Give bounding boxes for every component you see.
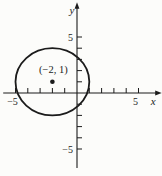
x-tick-label: 5 [133, 96, 138, 107]
x-axis-arrowhead-icon [155, 91, 162, 96]
y-tick-label: 5 [68, 32, 73, 43]
x-axis-label: x [150, 95, 156, 107]
circle-on-coordinate-plane-figure: −55−55xy(−2, 1) [0, 0, 162, 176]
x-tick-label: −5 [7, 96, 18, 107]
point-coordinates-label: (−2, 1) [39, 64, 68, 76]
plotted-point [50, 80, 55, 85]
y-tick-label: −5 [62, 144, 73, 155]
y-axis-label: y [69, 4, 75, 16]
y-axis-arrowhead-icon [75, 2, 80, 9]
coordinate-plane-plot: −55−55xy(−2, 1) [0, 0, 162, 176]
